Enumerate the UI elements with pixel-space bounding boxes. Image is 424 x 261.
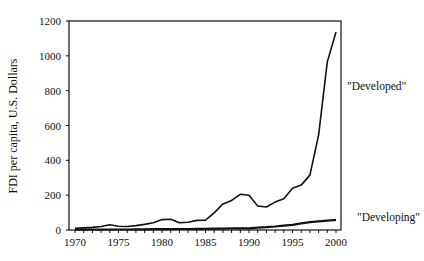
x-tick-label: 1995 [282, 236, 305, 248]
y-tick-label: 1200 [39, 15, 62, 27]
x-tick-label: 2000 [325, 236, 348, 248]
series-label-developing: "Developing" [357, 211, 420, 224]
y-tick-label: 400 [45, 154, 62, 166]
y-axis-ticks: 020040060080010001200 [39, 15, 69, 236]
developed-line [75, 32, 336, 228]
y-tick-label: 0 [56, 224, 62, 236]
y-tick-label: 200 [45, 189, 62, 201]
x-axis-ticks: 1970197519801985199019952000 [64, 230, 348, 248]
y-tick-label: 800 [45, 85, 62, 97]
plot-frame [69, 21, 341, 230]
series-label-developed: "Developed" [347, 80, 406, 93]
y-tick-label: 600 [45, 120, 62, 132]
x-tick-label: 1970 [64, 236, 87, 248]
x-tick-label: 1980 [151, 236, 174, 248]
y-axis-label: FDI per capita, U.S. Dollars [6, 58, 20, 193]
x-tick-label: 1985 [195, 236, 218, 248]
y-tick-label: 1000 [39, 50, 62, 62]
fdi-line-chart: 020040060080010001200 197019751980198519… [0, 0, 424, 261]
x-tick-label: 1975 [108, 236, 131, 248]
series-lines [75, 32, 336, 230]
x-tick-label: 1990 [238, 236, 261, 248]
